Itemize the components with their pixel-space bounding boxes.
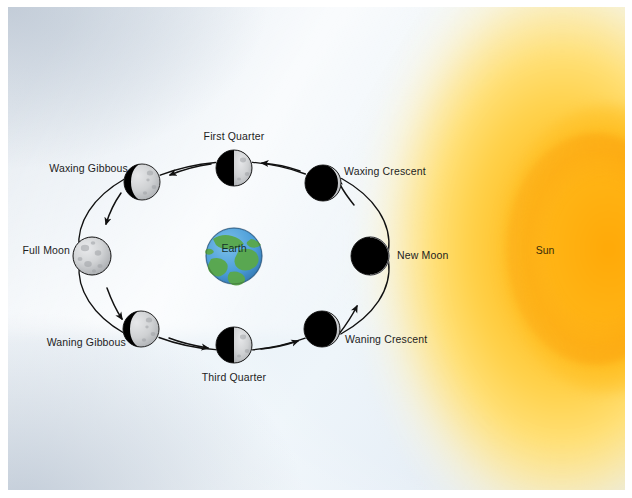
label-first-quarter: First Quarter [204, 131, 265, 142]
moon-waning-crescent [304, 311, 340, 347]
illustration-plate: New Moon Waxing Crescent First Quarter W… [8, 7, 625, 490]
moon-first-quarter [216, 150, 252, 186]
label-waxing-crescent: Waxing Crescent [344, 166, 426, 177]
moon-phases-figure: New Moon Waxing Crescent First Quarter W… [0, 0, 632, 498]
orbit-scene [8, 7, 625, 490]
moon-waxing-gibbous [124, 164, 160, 200]
label-third-quarter: Third Quarter [202, 372, 266, 383]
label-waning-crescent: Waning Crescent [345, 334, 427, 345]
moon-waxing-crescent [305, 165, 341, 201]
label-earth: Earth [221, 243, 246, 254]
label-waning-gibbous: Waning Gibbous [47, 337, 126, 348]
label-sun: Sun [536, 245, 555, 256]
earth [205, 228, 262, 286]
moon-full-moon [73, 237, 111, 275]
label-waxing-gibbous: Waxing Gibbous [49, 163, 128, 174]
moon-third-quarter [216, 327, 252, 363]
label-new-moon: New Moon [397, 250, 448, 261]
moon-new-moon [351, 237, 389, 275]
moon-waning-gibbous [123, 311, 159, 347]
label-full-moon: Full Moon [23, 245, 70, 256]
